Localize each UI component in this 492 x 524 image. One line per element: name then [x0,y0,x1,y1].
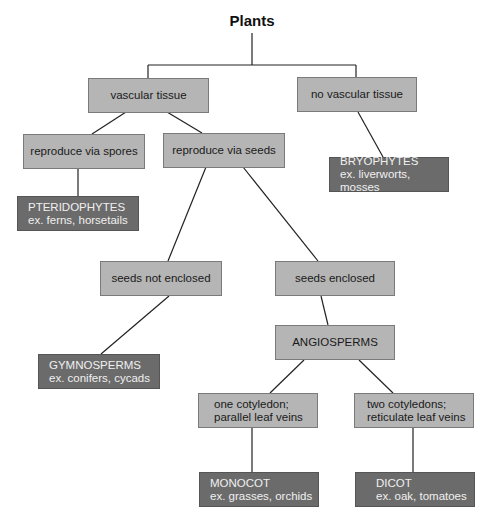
connector-lines [0,0,492,524]
node-label: reproduce via seeds [172,144,276,157]
node-vascular-tissue: vascular tissue [88,78,209,113]
node-line-2: parallel leaf veins [214,411,303,424]
node-label: vascular tissue [110,89,186,102]
node-gymnosperms: GYMNOSPERMS ex. conifers, cycads [38,354,160,389]
group-examples: ex. liverworts, mosses [340,168,448,194]
group-name: BRYOPHYTES [340,155,418,168]
node-label: seeds enclosed [295,272,375,285]
group-name: PTERIDOPHYTES [28,201,125,214]
node-label: reproduce via spores [30,145,137,158]
node-no-vascular-tissue: no vascular tissue [297,77,417,112]
diagram-title: Plants [202,12,302,29]
node-label: ANGIOSPERMS [292,336,378,349]
node-bryophytes: BRYOPHYTES ex. liverworts, mosses [329,157,449,192]
group-examples: ex. grasses, orchids [210,490,312,503]
group-name: MONOCOT [210,477,270,490]
node-line-1: two cotyledons; [367,398,446,411]
group-name: DICOT [376,477,412,490]
node-one-cotyledon: one cotyledon; parallel leaf veins [198,393,318,428]
node-reproduce-via-seeds: reproduce via seeds [163,133,285,168]
node-two-cotyledons: two cotyledons; reticulate leaf veins [354,393,474,428]
node-label: seeds not enclosed [111,272,210,285]
group-examples: ex. conifers, cycads [49,372,150,385]
node-monocot: MONOCOT ex. grasses, orchids [199,472,319,507]
node-reproduce-via-spores: reproduce via spores [23,134,145,169]
node-angiosperms: ANGIOSPERMS [275,325,395,360]
group-examples: ex. oak, tomatoes [376,490,467,503]
node-label: no vascular tissue [311,88,403,101]
group-name: GYMNOSPERMS [49,359,141,372]
node-seeds-not-enclosed: seeds not enclosed [100,261,222,296]
node-seeds-enclosed: seeds enclosed [275,261,395,296]
node-pteridophytes: PTERIDOPHYTES ex. ferns, horsetails [17,196,139,231]
node-line-2: reticulate leaf veins [367,411,465,424]
node-dicot: DICOT ex. oak, tomatoes [355,472,475,507]
node-line-1: one cotyledon; [214,398,289,411]
group-examples: ex. ferns, horsetails [28,214,128,227]
